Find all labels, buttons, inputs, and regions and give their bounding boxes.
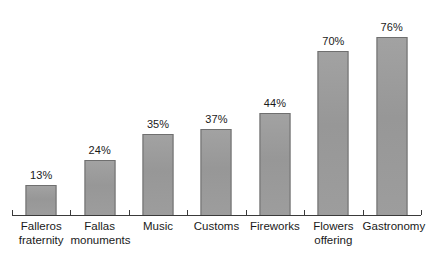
- axis-tick: [70, 210, 71, 215]
- bar-group: 13%: [12, 8, 70, 216]
- category-label: Music: [129, 219, 187, 233]
- bar: [84, 160, 115, 216]
- bar-value-label: 76%: [381, 22, 403, 33]
- bar-group: 24%: [70, 8, 128, 216]
- category-label: Flowersoffering: [304, 219, 362, 247]
- axis-tick: [246, 210, 247, 215]
- category-label-line: Fallas: [84, 220, 115, 232]
- bar-group: 70%: [304, 8, 362, 216]
- x-axis-category-labels: FallerosfraternityFallasmonumentsMusicCu…: [12, 219, 421, 263]
- category-label-line: Music: [143, 220, 173, 232]
- bar-column: 76%: [363, 8, 421, 216]
- bar-value-label: 44%: [264, 98, 286, 109]
- category-label: Fallasmonuments: [70, 219, 128, 247]
- category-label: Gastronomy: [363, 219, 421, 233]
- bar-group: 35%: [129, 8, 187, 216]
- bar-value-label: 70%: [322, 36, 344, 47]
- axis-tick: [421, 210, 422, 215]
- axis-tick: [129, 210, 130, 215]
- bar-column: 13%: [12, 8, 70, 216]
- category-label: Customs: [187, 219, 245, 233]
- bar-column: 35%: [129, 8, 187, 216]
- category-label-line: monuments: [70, 233, 128, 247]
- category-label: Fallerosfraternity: [12, 219, 70, 247]
- bar: [201, 129, 232, 216]
- bar-chart: 13%24%35%37%44%70%76% Fallerosfraternity…: [0, 0, 431, 267]
- category-label-line: Falleros: [21, 220, 62, 232]
- bar-value-label: 37%: [205, 114, 227, 125]
- bar: [26, 185, 57, 216]
- bar-value-label: 13%: [30, 170, 52, 181]
- bar-column: 37%: [187, 8, 245, 216]
- category-label-line: fraternity: [12, 233, 70, 247]
- bar-value-label: 35%: [147, 119, 169, 130]
- bar: [259, 113, 290, 216]
- bar-column: 44%: [246, 8, 304, 216]
- axis-tick: [187, 210, 188, 215]
- bar: [376, 37, 407, 216]
- bar-column: 70%: [304, 8, 362, 216]
- bar-value-label: 24%: [88, 145, 110, 156]
- category-label-line: Flowers: [313, 220, 353, 232]
- axis-tick: [12, 210, 13, 215]
- category-label-line: Gastronomy: [363, 220, 426, 232]
- plot-area: 13%24%35%37%44%70%76%: [12, 8, 421, 216]
- axis-tick: [304, 210, 305, 215]
- category-label-line: Customs: [194, 220, 239, 232]
- category-label: Fireworks: [246, 219, 304, 233]
- bar: [318, 51, 349, 216]
- bar-column: 24%: [70, 8, 128, 216]
- category-label-line: offering: [304, 233, 362, 247]
- x-axis-line: [12, 215, 421, 216]
- bar-group: 76%: [363, 8, 421, 216]
- bar-group: 44%: [246, 8, 304, 216]
- axis-tick: [363, 210, 364, 215]
- bar-group: 37%: [187, 8, 245, 216]
- category-label-line: Fireworks: [250, 220, 300, 232]
- bar: [143, 134, 174, 216]
